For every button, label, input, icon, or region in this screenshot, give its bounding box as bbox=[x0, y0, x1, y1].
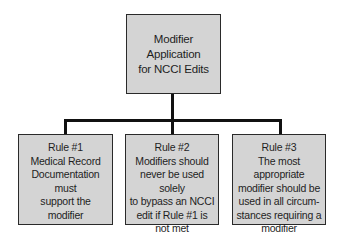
child-node-rule-1: Rule #1 Medical Record Documentation mus… bbox=[18, 134, 113, 225]
child-node-rule-2: Rule #2 Modifiers should never be used s… bbox=[125, 134, 219, 225]
rule-text-line: modifier should be bbox=[236, 182, 322, 196]
rule-text-line: stances requiring a bbox=[236, 209, 322, 223]
rule-text-line: edit if Rule #1 is bbox=[129, 209, 215, 223]
root-node-line: Modifier Application bbox=[130, 32, 217, 62]
rule-text-line: to bypass an NCCI bbox=[129, 195, 215, 209]
rule-title: Rule #1 bbox=[22, 141, 109, 155]
connector-drop-rule-2 bbox=[171, 119, 174, 135]
rule-text-line: Medical Record bbox=[22, 155, 109, 169]
rule-text-line: The most appropriate bbox=[236, 155, 322, 182]
rule-text-line: Modifiers should bbox=[129, 155, 215, 169]
rule-text-line: Documentation must bbox=[22, 168, 109, 195]
rule-title: Rule #2 bbox=[129, 141, 215, 155]
rule-title: Rule #3 bbox=[236, 141, 322, 155]
connector-root-stem bbox=[171, 93, 174, 122]
root-node-modifier-application: Modifier Application for NCCI Edits bbox=[126, 14, 221, 94]
rule-text-line: used in all circum- bbox=[236, 195, 322, 209]
rule-text-line: support the modifier bbox=[22, 195, 109, 222]
rule-text-line: not met bbox=[129, 222, 215, 236]
connector-drop-rule-3 bbox=[279, 119, 282, 135]
connector-drop-rule-1 bbox=[64, 119, 67, 135]
rule-text-line: modifier bbox=[236, 222, 322, 236]
root-node-line: for NCCI Edits bbox=[130, 62, 217, 77]
child-node-rule-3: Rule #3 The most appropriate modifier sh… bbox=[232, 134, 326, 225]
rule-text-line: never be used solely bbox=[129, 168, 215, 195]
